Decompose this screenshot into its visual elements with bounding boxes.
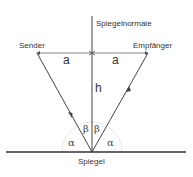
label-normal: Spiegelnormale: [96, 20, 152, 28]
label-h: h: [95, 82, 102, 94]
label-sender: Sender: [19, 42, 45, 50]
label-alpha-left: α: [68, 138, 75, 148]
incident-ray: [37, 53, 92, 152]
label-beta-right: β: [94, 124, 100, 134]
incident-arrow-icon: [68, 112, 73, 118]
reflected-ray: [92, 53, 148, 152]
label-a-right: a: [112, 54, 119, 66]
label-mirror: Spiegel: [78, 158, 105, 166]
label-a-left: a: [63, 54, 70, 66]
label-alpha-right: α: [107, 138, 114, 148]
label-beta-left: β: [83, 124, 89, 134]
label-receiver: Empfänger: [133, 42, 172, 50]
